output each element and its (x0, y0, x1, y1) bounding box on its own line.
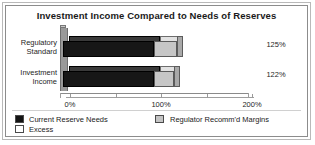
bar-segment-regulator-margins (154, 71, 174, 87)
x-axis-tick-label: 200% (237, 100, 267, 109)
category-label-line-2: Standard (5, 47, 57, 56)
legend-label-excess: Excess (29, 125, 53, 134)
legend-label-current-reserve-needs: Current Reserve Needs (29, 115, 108, 124)
x-axis-tick (161, 94, 162, 98)
x-axis-riser-right (248, 93, 249, 98)
legend-swatch-excess (15, 125, 24, 133)
x-axis-tick-label: 100% (146, 100, 176, 109)
value-label-regulatory-standard: 125% (253, 40, 299, 49)
legend-divider (12, 110, 301, 111)
x-axis-tick (252, 94, 253, 98)
legend-swatch-regulator-margins (155, 115, 164, 123)
x-axis-tick (70, 94, 71, 98)
x-axis-line-back (60, 93, 248, 94)
legend-swatch-current-reserve-needs (15, 115, 24, 123)
x-axis-riser-left (60, 93, 61, 98)
category-label-investment-income: Investment Income (5, 68, 57, 86)
bar-segment-current-reserve-needs (63, 71, 154, 87)
chart-title: Investment Income Compared to Needs of R… (5, 10, 308, 21)
x-axis-line-front (66, 97, 254, 98)
bar-segment-side-regulator-margins (177, 36, 183, 57)
bar-segment-regulator-margins (154, 41, 177, 57)
category-label-line-1: Regulatory (21, 38, 57, 47)
x-axis-tick (207, 94, 208, 98)
chart-container: Investment Income Compared to Needs of R… (0, 0, 315, 145)
x-axis-tick-label: 0% (55, 100, 85, 109)
legend-label-regulator-margins: Regulator Recomm'd Margins (170, 115, 269, 124)
value-label-investment-income: 122% (253, 70, 299, 79)
chart-plot-area: Investment Income Compared to Needs of R… (5, 5, 308, 137)
bar-segment-current-reserve-needs (63, 41, 154, 57)
category-label-line-1: Investment (20, 68, 57, 77)
bar-segment-side-regulator-margins (174, 66, 180, 87)
category-label-regulatory-standard: Regulatory Standard (5, 38, 57, 56)
x-axis-tick (116, 94, 117, 98)
category-label-line-2: Income (5, 77, 57, 86)
